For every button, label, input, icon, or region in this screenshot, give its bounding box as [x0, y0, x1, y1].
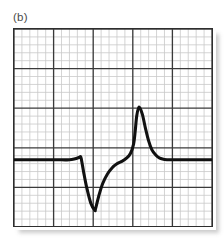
- panel-label: (b): [13, 10, 28, 24]
- waveform-chart-panel: [13, 28, 213, 227]
- waveform-trace: [14, 29, 212, 226]
- figure-root: (b): [0, 0, 224, 241]
- waveform-signal-path: [14, 107, 212, 211]
